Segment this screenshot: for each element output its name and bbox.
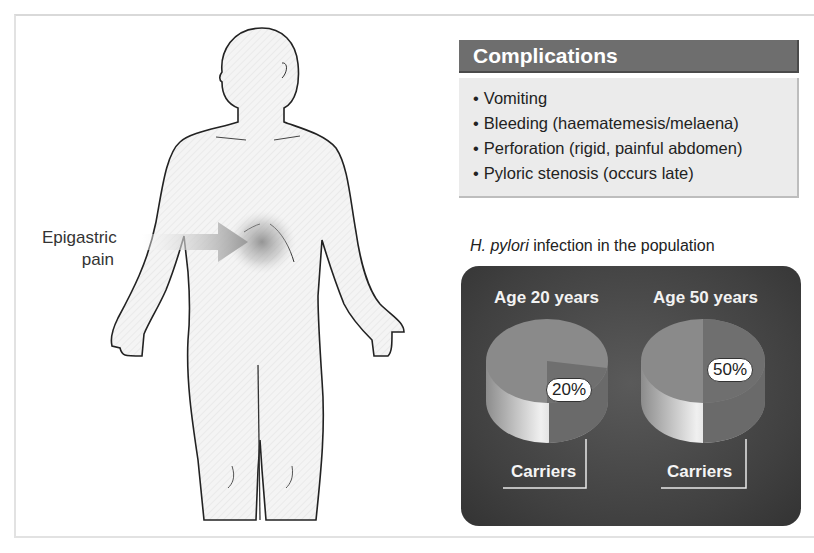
carriers-label-age-20: Carriers [511, 462, 576, 482]
human-body-illustration [0, 0, 460, 553]
carriers-label-age-50: Carriers [667, 462, 732, 482]
pain-label-line1: Epigastric [42, 227, 114, 249]
pct-label-age-20: 20% [546, 378, 592, 402]
epigastric-pain-label: Epigastric pain [42, 227, 114, 271]
pie-age-50 [641, 319, 765, 443]
complication-item: Vomiting [473, 86, 797, 111]
pain-label-line2: pain [42, 249, 114, 271]
caption-rest: infection in the population [529, 237, 715, 254]
pie-chart-panel: Age 20 years Age 50 years 20% 50% Carrie… [461, 266, 801, 526]
pie-title-age-50: Age 50 years [653, 288, 758, 308]
complication-item: Perforation (rigid, painful abdomen) [473, 136, 797, 161]
complication-item: Bleeding (haematemesis/melaena) [473, 111, 797, 136]
pie-title-age-20: Age 20 years [494, 288, 599, 308]
complications-title: Complications [473, 44, 618, 68]
caption-italic: H. pylori [470, 237, 529, 254]
complications-header: Complications [459, 40, 799, 73]
chart-caption: H. pylori infection in the population [470, 237, 715, 255]
pie-age-20 [486, 319, 608, 443]
complications-list: Vomiting Bleeding (haematemesis/melaena)… [459, 78, 799, 198]
complication-item: Pyloric stenosis (occurs late) [473, 161, 797, 186]
pct-label-age-50: 50% [707, 358, 753, 382]
